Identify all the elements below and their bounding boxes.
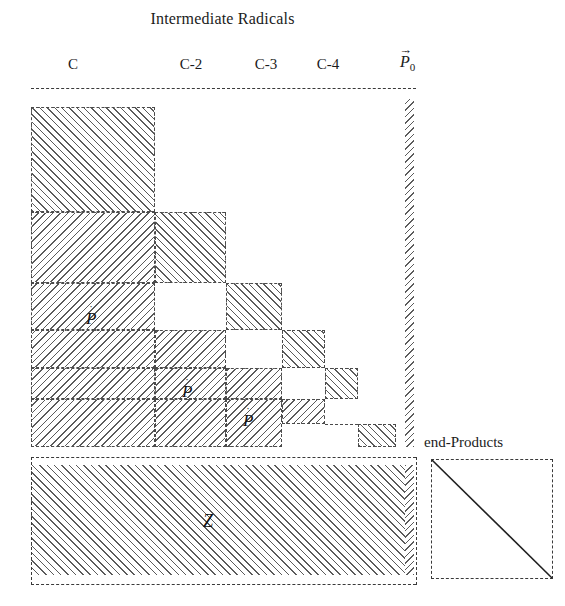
block-r1-c0 xyxy=(31,212,155,283)
p0-column-strip-lower xyxy=(405,465,414,575)
zone-z-right-border xyxy=(416,457,417,585)
block-r5-spacer xyxy=(325,424,358,425)
overdot-icon: ˙ xyxy=(404,49,408,60)
block-r0-c0 xyxy=(31,107,155,212)
radical-label-1: ˙ P xyxy=(86,310,96,327)
overdot-icon: ˙ xyxy=(89,304,93,316)
top-divider xyxy=(31,88,416,89)
mid-divider xyxy=(31,457,416,458)
p0-column-strip xyxy=(405,99,414,447)
radical-label-3: ˙ P xyxy=(243,412,253,429)
zone-z-left-border xyxy=(31,457,32,585)
column-header-c3: C-3 xyxy=(238,56,294,73)
figure-canvas: Intermediate Radicals C C-2 C-3 C-4 → ˙ … xyxy=(0,0,565,606)
end-products-label: end-Products xyxy=(424,434,503,451)
overdot-icon: ˙ xyxy=(246,406,250,418)
block-r3-c1 xyxy=(155,330,226,368)
block-r3-c0 xyxy=(31,330,155,368)
column-header-p0-vector: → ˙ P 0 xyxy=(400,54,415,73)
block-white-r5-c4 xyxy=(325,399,358,424)
block-r1-c1 xyxy=(155,212,226,283)
overdot-icon: ˙ xyxy=(185,377,189,389)
figure-title: Intermediate Radicals xyxy=(0,10,445,28)
radical-label-2: ˙ P xyxy=(182,383,192,400)
column-header-c2: C-2 xyxy=(163,56,219,73)
block-r5-c1 xyxy=(155,399,226,447)
column-header-c4: C-4 xyxy=(300,56,356,73)
block-r3-c3 xyxy=(282,330,325,368)
block-r2-c2 xyxy=(226,283,282,330)
zone-z-label: Z xyxy=(203,512,213,530)
block-r5-c2 xyxy=(226,399,282,447)
end-products-diagonal-line xyxy=(431,459,553,579)
block-r5-c3 xyxy=(282,399,325,424)
p0-subscript: 0 xyxy=(410,61,416,73)
block-r4-c4 xyxy=(325,368,358,399)
zone-z-band xyxy=(31,465,405,575)
bottom-divider xyxy=(31,584,416,585)
block-r4-c0 xyxy=(31,368,155,399)
block-r5-c0 xyxy=(31,399,155,447)
column-header-c: C xyxy=(48,56,98,73)
block-r5-c5 xyxy=(358,424,396,447)
block-r4-c2 xyxy=(226,368,282,399)
